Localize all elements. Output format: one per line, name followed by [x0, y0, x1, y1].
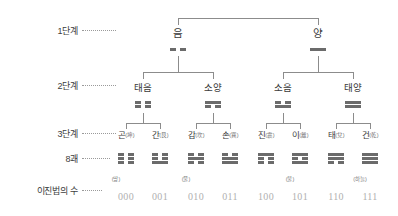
gua-seg-right — [128, 157, 134, 160]
gua-seg-solid — [310, 48, 326, 51]
gua-seg-left — [188, 153, 194, 156]
gua-seg-right — [268, 161, 274, 164]
row-leader-stage2 — [82, 85, 116, 86]
element-label-gon: (땅) — [112, 175, 121, 183]
gua-gon — [118, 153, 134, 164]
gua-taeeum — [135, 101, 151, 108]
gua-line-broken — [135, 105, 151, 108]
node-label-tae: 태 — [328, 130, 336, 140]
gua-line-broken — [118, 153, 134, 156]
gua-seg-left — [205, 105, 211, 108]
gua-gan — [152, 153, 168, 164]
gua-line-solid — [205, 101, 221, 104]
gua-seg-left — [188, 161, 194, 164]
node-hanja-son: (巽) — [229, 132, 238, 138]
row-label-gua8: 8괘 — [65, 152, 78, 165]
gua-seg-left — [135, 101, 141, 104]
gua-seg-right — [162, 153, 168, 156]
connector-l3-horizontal-1 — [196, 123, 230, 124]
connector-l2-drop-1 — [213, 72, 214, 79]
connector-l2-drop-0 — [143, 72, 144, 79]
connector-root-horizontal — [178, 18, 318, 19]
node-hanja-gon: (坤) — [125, 132, 134, 138]
node-jin: 진(震) — [258, 128, 275, 140]
connector-l2-drop-2 — [283, 72, 284, 79]
gua-line-solid — [222, 157, 238, 160]
connector-root-drop-eum — [178, 18, 179, 25]
gua-line-broken — [258, 161, 274, 164]
gua-jin — [258, 153, 274, 164]
gua-seg-left — [222, 153, 228, 156]
binary-tae: 110 — [328, 191, 344, 202]
row-leader-stage1 — [82, 30, 116, 31]
gua-line-solid — [310, 48, 326, 51]
gua-line-solid — [152, 161, 168, 164]
row-label-stage1: 1단계 — [58, 24, 78, 37]
gua-seg-left — [275, 101, 281, 104]
connector-l2-horizontal-1 — [283, 72, 353, 73]
connector-l2-stem-3 — [353, 113, 354, 123]
gua-seg-left — [152, 157, 158, 160]
row-label-stage3: 3단계 — [58, 127, 78, 140]
gua-seg-right — [232, 153, 238, 156]
gua-seg-left — [152, 153, 158, 156]
connector-root-drop-yang — [318, 18, 319, 25]
gua-seg-left — [118, 157, 124, 160]
row-leader-stage3 — [82, 133, 116, 134]
connector-l2-stem-0 — [143, 113, 144, 123]
gua-line-solid — [188, 157, 204, 160]
row-label-binary: 이진법의 수 — [37, 184, 78, 197]
node-label-gam: 감 — [188, 130, 196, 140]
binary-gon: 000 — [118, 191, 134, 202]
gua-son — [222, 153, 238, 164]
binary-gan: 001 — [152, 191, 168, 202]
node-i: 이(離) — [292, 128, 309, 140]
gua-seg-solid — [222, 157, 238, 160]
gua-line-broken — [152, 153, 168, 156]
gua-seg-solid — [152, 161, 168, 164]
node-hanja-gan: (艮) — [159, 132, 168, 138]
gua-line-solid — [362, 153, 378, 156]
gua-line-solid — [362, 161, 378, 164]
gua-line-broken — [328, 161, 344, 164]
gua-line-solid — [362, 157, 378, 160]
row-label-stage2: 2단계 — [58, 79, 78, 92]
gua-soyang — [205, 101, 221, 108]
gua-seg-left — [258, 161, 264, 164]
gua-seg-left — [118, 161, 124, 164]
gua-line-broken — [258, 157, 274, 160]
gua-seg-solid — [328, 157, 344, 160]
connector-l2-horizontal-0 — [143, 72, 213, 73]
binary-gam: 010 — [188, 191, 204, 202]
gua-line-solid — [292, 161, 308, 164]
gua-seg-right — [338, 161, 344, 164]
gua-seg-solid — [328, 153, 344, 156]
gua-seg-left — [170, 48, 176, 51]
gua-taeyang — [345, 101, 361, 108]
node-gon: 곤(坤) — [118, 128, 135, 140]
node-hanja-geon: (乾) — [369, 132, 378, 138]
gua-line-solid — [292, 153, 308, 156]
gua-seg-solid — [292, 153, 308, 156]
node-label-jin: 진 — [258, 130, 266, 140]
connector-l3-horizontal-2 — [266, 123, 300, 124]
connector-l1-stem-0 — [178, 56, 179, 72]
connector-l2-stem-2 — [283, 113, 284, 123]
gua-seg-right — [268, 157, 274, 160]
node-label-geon: 건 — [362, 130, 370, 140]
gua-line-broken — [135, 101, 151, 104]
gua-line-solid — [258, 153, 274, 156]
connector-l1-stem-1 — [318, 56, 319, 72]
gua-seg-left — [118, 153, 124, 156]
gua-line-broken — [222, 153, 238, 156]
node-label-i: 이 — [292, 130, 300, 140]
node-son: 손(巽) — [222, 128, 239, 140]
row-leader-binary — [82, 190, 102, 191]
gua-seg-solid — [275, 105, 291, 108]
gua-seg-right — [198, 153, 204, 156]
gua-gam — [188, 153, 204, 164]
node-hanja-i: (離) — [299, 132, 308, 138]
node-taeeum: 태음 — [134, 80, 152, 94]
gua-line-broken — [292, 157, 308, 160]
node-eum: 음 — [173, 25, 183, 40]
